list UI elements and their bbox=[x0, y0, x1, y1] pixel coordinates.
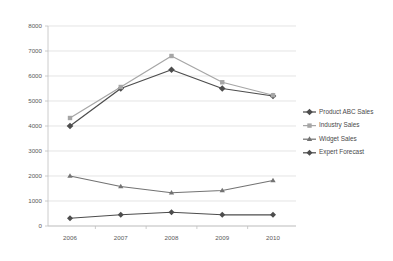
y-axis-label: 5000 bbox=[28, 97, 42, 104]
legend-marker-icon bbox=[307, 123, 311, 127]
data-point-marker bbox=[271, 93, 275, 97]
data-point-marker bbox=[168, 66, 175, 73]
x-axis-label: 2006 bbox=[63, 234, 77, 241]
data-series bbox=[68, 54, 275, 120]
y-axis-label: 8000 bbox=[28, 22, 42, 29]
y-axis-label: 7000 bbox=[28, 47, 42, 54]
data-point-marker bbox=[219, 85, 226, 92]
y-axis-label: 4000 bbox=[28, 122, 42, 129]
series-lines bbox=[67, 54, 277, 221]
legend-label: Expert Forecast bbox=[319, 148, 364, 156]
data-point-marker bbox=[169, 54, 173, 58]
line-chart: 010002000300040005000600070008000 200620… bbox=[0, 0, 393, 261]
data-point-marker bbox=[118, 212, 124, 218]
series-line bbox=[70, 70, 273, 126]
data-point-marker bbox=[220, 80, 224, 84]
series-line bbox=[70, 56, 273, 118]
data-point-marker bbox=[119, 85, 123, 89]
y-axis-label: 1000 bbox=[28, 197, 42, 204]
x-axis-label: 2009 bbox=[215, 234, 229, 241]
data-point-marker bbox=[270, 212, 276, 218]
legend-label: Widget Sales bbox=[319, 135, 357, 143]
x-axis-label: 2008 bbox=[165, 234, 179, 241]
legend-label: Industry Sales bbox=[319, 121, 360, 129]
chart-legend: Product ABC SalesIndustry SalesWidget Sa… bbox=[303, 108, 373, 157]
data-point-marker bbox=[169, 209, 175, 215]
data-point-marker bbox=[67, 215, 73, 221]
y-axis-label: 6000 bbox=[28, 72, 42, 79]
legend-marker-icon bbox=[306, 109, 313, 116]
x-axis-label: 2007 bbox=[114, 234, 128, 241]
y-axis-label: 3000 bbox=[28, 147, 42, 154]
y-axis-label: 0 bbox=[39, 222, 43, 229]
data-series bbox=[67, 173, 275, 194]
data-point-marker bbox=[270, 178, 275, 183]
chart-canvas: 010002000300040005000600070008000 200620… bbox=[0, 0, 393, 261]
data-point-marker bbox=[68, 116, 72, 120]
data-point-marker bbox=[219, 212, 225, 218]
x-axis-label: 2010 bbox=[266, 234, 280, 241]
x-axis-tick-labels: 20062007200820092010 bbox=[63, 234, 280, 241]
legend-item[interactable]: Widget Sales bbox=[303, 135, 357, 143]
y-axis-label: 2000 bbox=[28, 172, 42, 179]
data-point-marker bbox=[67, 173, 72, 178]
y-axis-tick-labels: 010002000300040005000600070008000 bbox=[28, 22, 42, 229]
legend-item[interactable]: Industry Sales bbox=[303, 121, 360, 129]
legend-item[interactable]: Product ABC Sales bbox=[303, 108, 373, 116]
legend-item[interactable]: Expert Forecast bbox=[303, 148, 364, 156]
legend-label: Product ABC Sales bbox=[319, 108, 373, 115]
legend-marker-icon bbox=[307, 150, 313, 156]
data-series bbox=[67, 209, 276, 221]
